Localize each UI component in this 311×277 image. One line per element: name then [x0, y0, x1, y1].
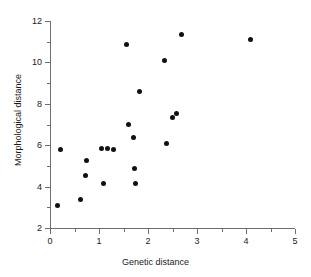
data-point — [137, 89, 142, 94]
x-axis-tick-label: 2 — [133, 236, 163, 246]
scatter-plot-figure: 01234524681012 Morphological distance Ge… — [0, 0, 311, 277]
x-axis-tick-label: 3 — [182, 236, 212, 246]
y-axis-tick-minor — [47, 207, 50, 208]
y-axis-tick-minor — [47, 83, 50, 84]
plot-area: 01234524681012 — [0, 0, 311, 277]
x-axis-tick-minor — [75, 229, 76, 232]
x-axis-tick-major — [246, 229, 247, 234]
x-axis-tick-label: 5 — [280, 236, 310, 246]
data-point — [174, 111, 179, 116]
data-point — [83, 173, 88, 178]
data-point — [78, 197, 83, 202]
y-axis-line — [50, 21, 51, 228]
data-point — [248, 37, 253, 42]
x-axis-title: Genetic distance — [0, 257, 311, 267]
x-axis-tick-major — [295, 229, 296, 234]
x-axis-tick-label: 0 — [35, 236, 65, 246]
y-axis-tick-major — [45, 228, 50, 229]
data-point — [55, 203, 60, 208]
x-axis-tick-major — [99, 229, 100, 234]
data-point — [179, 32, 184, 37]
x-axis-tick-minor — [222, 229, 223, 232]
data-point — [162, 58, 167, 63]
data-point — [131, 135, 136, 140]
data-point — [126, 122, 131, 127]
y-axis-title-wrapper: Morphological distance — [0, 0, 22, 240]
x-axis-tick-major — [148, 229, 149, 234]
y-axis-tick-major — [45, 187, 50, 188]
y-axis-tick-minor — [47, 166, 50, 167]
x-axis-tick-minor — [173, 229, 174, 232]
y-axis-tick-major — [45, 104, 50, 105]
x-axis-tick-major — [197, 229, 198, 234]
y-axis-title: Morphological distance — [13, 40, 23, 200]
x-axis-tick-label: 4 — [231, 236, 261, 246]
x-axis-tick-label: 1 — [84, 236, 114, 246]
data-point — [84, 158, 89, 163]
data-point — [132, 166, 137, 171]
y-axis-tick-major — [45, 21, 50, 22]
data-point — [111, 147, 116, 152]
data-point — [101, 181, 106, 186]
data-point — [58, 147, 63, 152]
data-point — [164, 141, 169, 146]
y-axis-tick-minor — [47, 125, 50, 126]
x-axis-tick-minor — [271, 229, 272, 232]
y-axis-tick-major — [45, 62, 50, 63]
y-axis-tick-minor — [47, 42, 50, 43]
data-point — [124, 42, 129, 47]
y-axis-tick-major — [45, 145, 50, 146]
x-axis-tick-minor — [124, 229, 125, 232]
x-axis-tick-major — [50, 229, 51, 234]
data-point — [133, 181, 138, 186]
data-point — [99, 146, 104, 151]
data-point — [105, 146, 110, 151]
